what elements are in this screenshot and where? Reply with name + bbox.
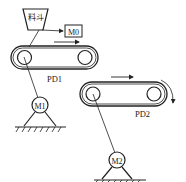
- hopper-chute-line: [29, 30, 39, 47]
- motor-m2-label: M2: [111, 157, 122, 166]
- pd2-label: PD2: [135, 109, 150, 119]
- conveyor-pd2: PD2: [80, 77, 173, 119]
- motor-m0: M0: [65, 25, 82, 37]
- conveyor-diagram: 料斗 M0 PD1 M1: [0, 0, 186, 182]
- pd2-right-roller: [147, 87, 161, 101]
- hopper-label: 料斗: [28, 12, 44, 22]
- pd1-label: PD1: [47, 74, 62, 84]
- hopper-to-m0-arrow: [42, 30, 63, 31]
- m1-ground-hatch: [16, 127, 61, 132]
- conveyor-pd1: PD1: [11, 42, 98, 84]
- motor-m1: M1: [15, 97, 66, 132]
- hopper: 料斗: [23, 9, 48, 30]
- motor-m0-label: M0: [68, 28, 79, 37]
- motor-m2: M2: [94, 152, 146, 182]
- pd1-right-roller: [78, 51, 92, 65]
- motor-m1-label: M1: [34, 102, 45, 111]
- pd2-drive-line: [93, 94, 115, 153]
- pd1-drive-line: [24, 57, 38, 98]
